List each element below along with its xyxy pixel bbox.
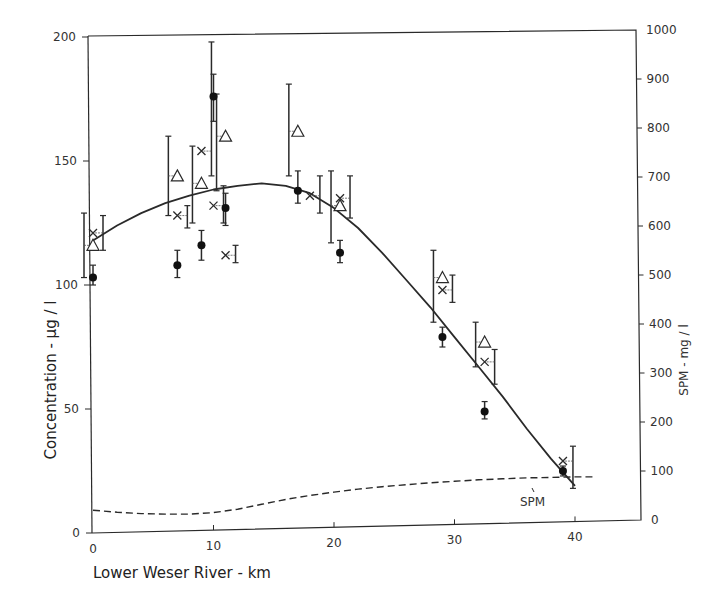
- chart: 0501001502000100200300400500600700800900…: [0, 0, 723, 602]
- error-bars: [81, 42, 576, 488]
- y2-tick-label: 200: [650, 415, 673, 429]
- axis-labels: 0501001502000100200300400500600700800900…: [42, 23, 691, 582]
- y2-tick-label: 300: [650, 366, 673, 380]
- data-point-circle: [89, 274, 97, 282]
- SPM: [93, 477, 593, 514]
- data-point-circle: [336, 249, 344, 257]
- data-point-triangle: [195, 177, 207, 188]
- y-axis-title: Concentration - µg / l: [42, 301, 60, 460]
- spm-annotation: SPM: [520, 495, 545, 509]
- y-tick-label: 150: [54, 154, 77, 168]
- y2-tick-label: 1000: [646, 23, 677, 37]
- data-point-circle: [438, 333, 446, 341]
- data-point-triangle: [436, 272, 448, 283]
- y-tick-label: 100: [55, 278, 78, 292]
- x-tick-label: 0: [89, 542, 97, 556]
- y2-tick-label: 100: [651, 464, 674, 478]
- x-tick-label: 30: [447, 533, 462, 547]
- x-tick-label: 20: [326, 536, 341, 550]
- y2-axis-title: SPM - mg / l: [677, 324, 691, 395]
- fit-curve: [93, 183, 575, 486]
- x-tick-label: 40: [567, 530, 582, 544]
- y-tick-label: 200: [53, 30, 76, 44]
- y-tick-label: 0: [72, 526, 80, 540]
- y2-tick-label: 600: [648, 219, 671, 233]
- y2-tick-label: 700: [648, 170, 671, 184]
- y2-tick-label: 900: [647, 72, 670, 86]
- y2-tick-label: 0: [651, 513, 659, 527]
- data-point-triangle: [334, 200, 346, 211]
- data-point-triangle: [171, 170, 183, 181]
- data-point-circle: [294, 187, 302, 195]
- data-point-triangle: [87, 239, 99, 250]
- curves: [93, 183, 593, 514]
- y-tick-label: 50: [64, 402, 79, 416]
- data-point-triangle: [220, 130, 232, 141]
- data-point-circle: [559, 467, 567, 475]
- data-point-circle: [197, 241, 205, 249]
- y2-tick-label: 400: [649, 317, 672, 331]
- data-markers: [87, 93, 567, 475]
- plot-frame: [88, 30, 641, 533]
- data-point-circle: [222, 204, 230, 212]
- x-tick-label: 10: [206, 539, 221, 553]
- data-point-triangle: [479, 336, 491, 347]
- y2-tick-label: 800: [647, 121, 670, 135]
- data-point-triangle: [292, 125, 304, 136]
- x-axis-title: Lower Weser River - km: [93, 564, 271, 582]
- data-point-circle: [173, 261, 181, 269]
- data-point-circle: [481, 407, 489, 415]
- axes-frame: [88, 30, 641, 533]
- data-point-circle: [210, 93, 218, 101]
- y2-tick-label: 500: [649, 268, 672, 282]
